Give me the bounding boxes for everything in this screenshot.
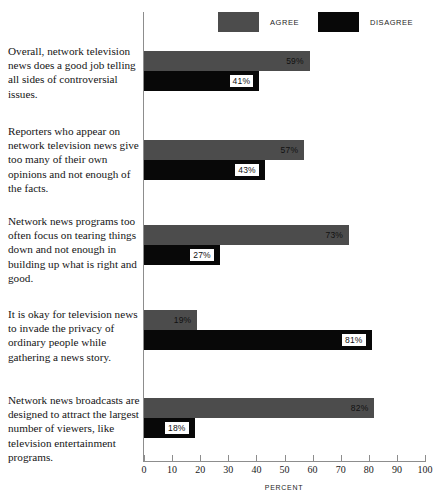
bar-chart: AGREE DISAGREE 0102030405060708090100 PE… <box>0 0 440 501</box>
bar-value-disagree: 27% <box>190 249 214 261</box>
x-axis-tick <box>285 455 286 462</box>
bar-value-agree: 82% <box>351 404 375 413</box>
x-axis-tick-label: 20 <box>195 464 205 475</box>
bar-value-disagree: 18% <box>165 422 189 434</box>
x-axis-tick <box>172 455 173 462</box>
legend-label-agree: AGREE <box>270 18 299 27</box>
x-axis-tick-label: 80 <box>364 464 374 475</box>
x-axis-tick-label: 90 <box>392 464 402 475</box>
x-axis-tick-label: 40 <box>251 464 261 475</box>
bar-disagree: 81% <box>144 330 372 350</box>
legend-swatch-agree <box>218 12 259 32</box>
statement-text: Reporters who appear on network televisi… <box>8 124 140 195</box>
bar-agree: 19% <box>144 310 197 330</box>
x-axis-tick-label: 50 <box>280 464 290 475</box>
bar-disagree: 43% <box>144 160 265 180</box>
x-axis-tick <box>200 455 201 462</box>
x-axis-tick <box>425 455 426 462</box>
bar-disagree: 18% <box>144 418 195 438</box>
bar-value-agree: 73% <box>326 231 350 240</box>
statement-text: Overall, network television news does a … <box>8 44 140 101</box>
bar-disagree: 27% <box>144 245 220 265</box>
x-axis-title: PERCENT <box>265 484 303 491</box>
x-axis-tick-label: 60 <box>308 464 318 475</box>
bar-agree: 57% <box>144 140 304 160</box>
bar-disagree: 41% <box>144 71 259 91</box>
legend-item-disagree: DISAGREE <box>318 12 413 32</box>
x-axis-tick <box>369 455 370 462</box>
bar-value-agree: 57% <box>281 146 305 155</box>
x-axis-tick-label: 30 <box>223 464 233 475</box>
legend-item-agree: AGREE <box>218 12 299 32</box>
x-axis-tick <box>313 455 314 462</box>
statement-text: Network news programs too often focus on… <box>8 214 140 285</box>
x-axis-tick <box>144 455 145 462</box>
bar-value-disagree: 41% <box>230 75 254 87</box>
bar-value-agree: 59% <box>286 57 310 66</box>
bar-agree: 73% <box>144 225 349 245</box>
bar-value-disagree: 81% <box>342 334 366 346</box>
bar-value-agree: 19% <box>174 316 198 325</box>
x-axis-tick <box>397 455 398 462</box>
bar-agree: 82% <box>144 398 374 418</box>
x-axis-tick-label: 100 <box>418 464 433 475</box>
statement-text: Network news broadcasts are designed to … <box>8 393 140 464</box>
x-axis-tick <box>228 455 229 462</box>
statement-text: It is okay for television news to invade… <box>8 307 140 364</box>
x-axis-tick-label: 10 <box>167 464 177 475</box>
x-axis-tick <box>341 455 342 462</box>
bar-agree: 59% <box>144 51 310 71</box>
legend-swatch-disagree <box>318 12 359 32</box>
legend-label-disagree: DISAGREE <box>370 18 413 27</box>
x-axis-tick <box>256 455 257 462</box>
x-axis-tick-label: 0 <box>142 464 147 475</box>
bar-value-disagree: 43% <box>235 164 259 176</box>
x-axis-tick-label: 70 <box>336 464 346 475</box>
